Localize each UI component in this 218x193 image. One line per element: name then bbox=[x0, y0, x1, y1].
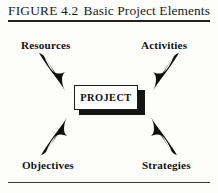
node-label-resources: Resources bbox=[21, 39, 71, 51]
arrow-resources-to-project-tail bbox=[39, 53, 62, 84]
project-box: PROJECT bbox=[74, 85, 138, 110]
arrow-activities-to-project-icon bbox=[153, 53, 179, 91]
arrow-objectives-to-project-tail bbox=[41, 124, 64, 155]
arrow-activities-to-project-tail bbox=[156, 53, 179, 84]
caption-divider-top bbox=[8, 20, 210, 22]
arrow-strategies-to-project-tail bbox=[154, 124, 177, 155]
project-node: PROJECT bbox=[74, 85, 146, 116]
node-label-strategies: Strategies bbox=[142, 159, 191, 171]
node-label-activities: Activities bbox=[141, 39, 187, 51]
arrow-strategies-to-project-icon bbox=[151, 117, 177, 155]
figure-container: FIGURE 4.2 Basic Project Elements Resour… bbox=[0, 0, 218, 193]
node-label-objectives: Objectives bbox=[22, 159, 74, 171]
figure-title: Basic Project Elements bbox=[84, 3, 210, 19]
arrow-resources-to-project-icon bbox=[39, 53, 65, 91]
project-box-label: PROJECT bbox=[80, 92, 131, 103]
figure-divider-bottom bbox=[8, 182, 210, 183]
figure-number: FIGURE 4.2 bbox=[8, 3, 78, 19]
arrow-objectives-to-project-icon bbox=[41, 117, 67, 155]
figure-caption: FIGURE 4.2 Basic Project Elements bbox=[8, 2, 210, 19]
